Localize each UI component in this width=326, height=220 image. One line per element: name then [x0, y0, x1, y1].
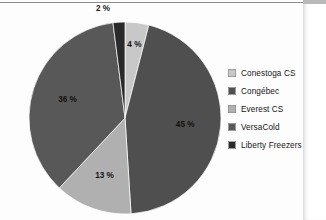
legend-item[interactable]: Liberty Freezers — [228, 136, 304, 154]
pie-slice-label: 13 % — [95, 171, 114, 180]
pie-slice-group — [29, 22, 221, 214]
page-panel-edge-top — [303, 0, 326, 4]
pie-slice-label: 4 % — [127, 40, 142, 49]
legend-item[interactable]: Conestoga CS — [228, 64, 304, 82]
legend-item-label: Congébec — [241, 87, 279, 96]
legend-item-label: VersaCold — [241, 123, 280, 132]
legend-swatch-icon — [228, 87, 236, 95]
legend-item-label: Conestoga CS — [241, 69, 295, 78]
slice-label-liberty-freezers: 2 % — [96, 4, 110, 13]
legend-swatch-icon — [228, 123, 236, 131]
legend-item-label: Everest CS — [241, 105, 283, 114]
pie-slice-label: 45 % — [176, 120, 195, 129]
legend-item[interactable]: Congébec — [228, 82, 304, 100]
legend-item[interactable]: Everest CS — [228, 100, 304, 118]
legend-swatch-icon — [228, 141, 236, 149]
legend-swatch-icon — [228, 105, 236, 113]
pie-chart: 4 %45 %13 %36 % — [27, 20, 223, 216]
legend-item[interactable]: VersaCold — [228, 118, 304, 136]
legend-swatch-icon — [228, 69, 236, 77]
top-divider-rule — [0, 2, 306, 3]
legend-item-label: Liberty Freezers — [241, 141, 302, 150]
chart-page: ers 2 % 4 %45 %13 %36 % Conestoga CSCong… — [0, 0, 326, 220]
pie-slice-label: 36 % — [58, 95, 77, 104]
page-panel-edge — [303, 0, 326, 220]
pie-chart-svg: 4 %45 %13 %36 % — [27, 20, 223, 216]
chart-legend: Conestoga CSCongébecEverest CSVersaColdL… — [228, 64, 304, 154]
